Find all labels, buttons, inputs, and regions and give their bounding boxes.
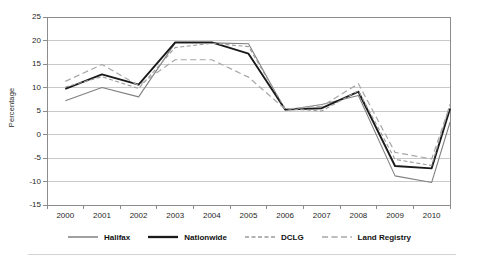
- gridlines: [47, 17, 450, 205]
- line-chart: Percentage 2520151050-5-10-15 2000200120…: [0, 0, 479, 264]
- legend-swatch-icon: [68, 232, 98, 242]
- x-tick-label: 2001: [82, 211, 122, 220]
- x-tick-label: 2009: [375, 211, 415, 220]
- x-tick-label: 2006: [265, 211, 305, 220]
- y-tick-label: 20: [19, 36, 41, 45]
- legend-label: DCLG: [281, 233, 304, 242]
- axis-ticks: [43, 17, 450, 209]
- plot-area: [0, 0, 479, 264]
- data-series: [65, 42, 450, 182]
- x-tick-label: 2007: [302, 211, 342, 220]
- y-tick-label: 25: [19, 12, 41, 21]
- y-tick-label: -15: [19, 200, 41, 209]
- legend-item-nationwide[interactable]: Nationwide: [148, 232, 227, 242]
- y-tick-label: 5: [19, 106, 41, 115]
- series-line-dclg: [65, 43, 450, 165]
- y-tick-label: -5: [19, 153, 41, 162]
- legend-item-halifax[interactable]: Halifax: [68, 232, 130, 242]
- x-tick-label: 2000: [45, 211, 85, 220]
- legend-item-dclg[interactable]: DCLG: [245, 232, 304, 242]
- x-tick-label: 2004: [192, 211, 232, 220]
- y-tick-label: -10: [19, 177, 41, 186]
- y-tick-label: 15: [19, 59, 41, 68]
- legend-swatch-icon: [148, 232, 178, 242]
- legend-swatch-icon: [245, 232, 275, 242]
- bottom-divider: [28, 254, 456, 255]
- y-axis-title: Percentage: [7, 78, 16, 138]
- legend-label: Nationwide: [184, 233, 227, 242]
- legend-label: Land Registry: [358, 233, 411, 242]
- x-tick-label: 2003: [155, 211, 195, 220]
- x-tick-label: 2010: [412, 211, 452, 220]
- x-tick-label: 2002: [119, 211, 159, 220]
- legend-item-land-registry[interactable]: Land Registry: [322, 232, 411, 242]
- y-tick-label: 10: [19, 83, 41, 92]
- legend-label: Halifax: [104, 233, 130, 242]
- series-line-land-registry: [65, 60, 450, 159]
- x-tick-label: 2005: [229, 211, 269, 220]
- chart-legend: HalifaxNationwideDCLGLand Registry: [0, 228, 479, 246]
- legend-swatch-icon: [322, 232, 352, 242]
- y-tick-label: 0: [19, 130, 41, 139]
- x-tick-label: 2008: [338, 211, 378, 220]
